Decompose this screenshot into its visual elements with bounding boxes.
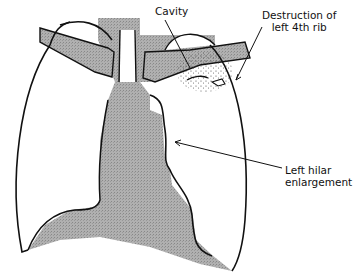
hilar-enlargement-label: Left hilar enlargement xyxy=(285,164,352,188)
rib-destruction-label: Destruction of left 4th rib xyxy=(262,9,336,33)
chest-drawing xyxy=(0,0,357,279)
chest-diagram: Cavity Destruction of left 4th rib Left … xyxy=(0,0,357,279)
cavity-label: Cavity xyxy=(155,5,188,17)
hilar-label-line1: Left hilar xyxy=(285,164,352,176)
mediastinum-shadow xyxy=(28,82,232,271)
hilar-label-line2: enlargement xyxy=(285,176,352,188)
rib-label-line2: left 4th rib xyxy=(262,21,336,33)
rib-label-line1: Destruction of xyxy=(262,9,336,21)
